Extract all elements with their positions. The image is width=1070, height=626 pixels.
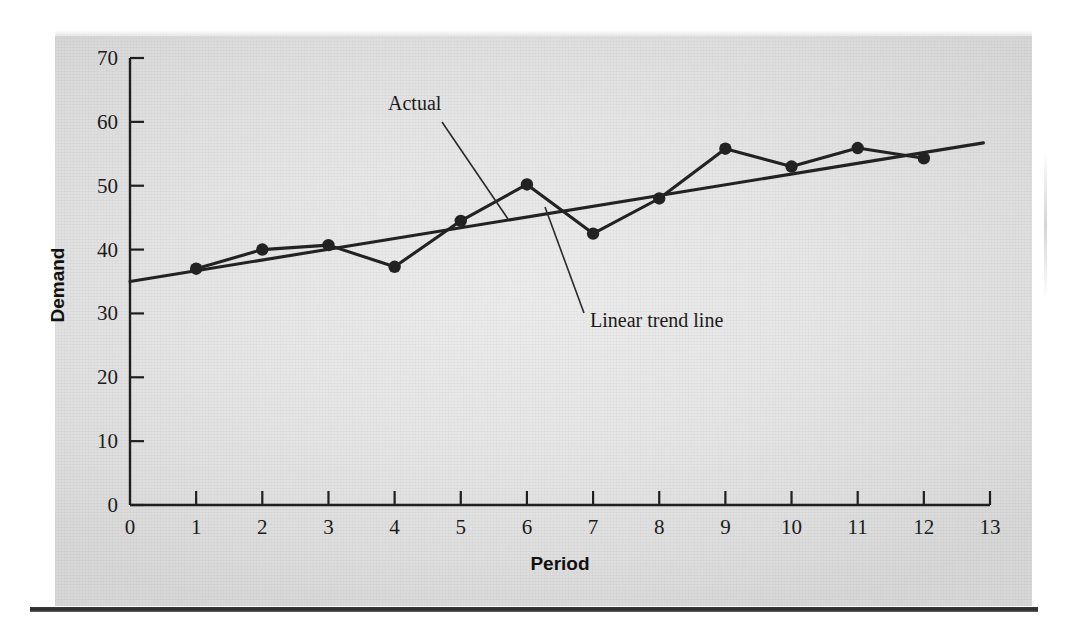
x-tick-label: 12: [913, 515, 934, 539]
annotation-leader-line: [442, 122, 508, 219]
chart-plot: 010203040506070 012345678910111213 Actua…: [0, 0, 1070, 626]
data-point-marker: [719, 142, 731, 154]
x-tick-label: 3: [323, 515, 334, 539]
x-tick-label: 8: [654, 515, 665, 539]
x-tick-label: 5: [456, 515, 467, 539]
x-tick-label: 13: [980, 515, 1001, 539]
scan-artifact: [1044, 150, 1047, 300]
axes-group: [130, 58, 990, 505]
x-tick-label: 4: [389, 515, 400, 539]
data-point-marker: [388, 261, 400, 273]
x-tick-label: 10: [781, 515, 802, 539]
x-tick-label: 0: [125, 515, 136, 539]
data-point-marker: [322, 239, 334, 251]
data-point-marker: [785, 160, 797, 172]
x-tick-label: 7: [588, 515, 599, 539]
data-point-marker: [918, 152, 930, 164]
x-axis-ticks: 012345678910111213: [125, 491, 1001, 539]
y-tick-label: 10: [97, 429, 118, 453]
data-point-marker: [521, 178, 533, 190]
x-axis-title: Period: [530, 553, 589, 574]
x-tick-label: 9: [720, 515, 731, 539]
y-tick-label: 50: [97, 174, 118, 198]
data-point-marker: [587, 227, 599, 239]
y-tick-label: 20: [97, 365, 118, 389]
annotation-actual-label: Actual: [388, 92, 442, 114]
data-point-marker: [653, 192, 665, 204]
actual-demand-line: [196, 148, 924, 269]
y-tick-label: 0: [108, 493, 119, 517]
x-tick-label: 1: [191, 515, 202, 539]
data-point-marker: [455, 215, 467, 227]
y-tick-label: 70: [97, 46, 118, 70]
data-point-marker: [190, 263, 202, 275]
y-axis-title: Demand: [47, 248, 68, 323]
x-tick-label: 11: [848, 515, 868, 539]
x-tick-label: 2: [257, 515, 268, 539]
data-point-marker: [851, 142, 863, 154]
figure-page: 010203040506070 012345678910111213 Actua…: [0, 0, 1070, 626]
bottom-rule: [30, 607, 1038, 612]
y-tick-label: 40: [97, 238, 118, 262]
y-tick-label: 60: [97, 110, 118, 134]
annotation-trend-label: Linear trend line: [590, 309, 723, 331]
data-point-marker: [256, 243, 268, 255]
y-tick-label: 30: [97, 301, 118, 325]
linear-trend-line: [130, 143, 983, 282]
x-tick-label: 6: [522, 515, 533, 539]
